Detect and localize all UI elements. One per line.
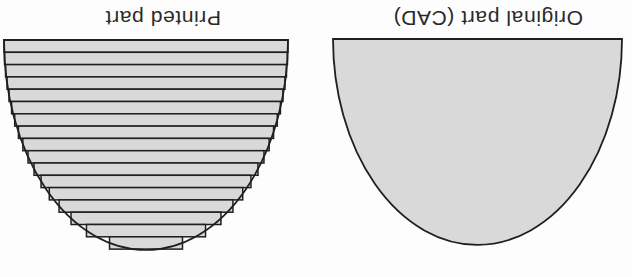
print-layer <box>86 225 205 237</box>
original-part-outline <box>333 39 622 245</box>
print-layer <box>28 151 264 163</box>
print-layer <box>34 163 258 175</box>
print-layer <box>41 175 251 187</box>
print-layer <box>59 200 233 212</box>
print-layer <box>12 102 281 114</box>
print-layer <box>4 40 288 52</box>
original-part-label: Original part (CAD) <box>378 4 598 32</box>
print-layer <box>71 212 221 224</box>
print-layer <box>7 77 285 89</box>
printed-part-shape <box>4 40 288 250</box>
print-layer <box>5 52 288 64</box>
print-layer <box>18 126 273 138</box>
print-layer <box>15 114 278 126</box>
diagram-canvas <box>0 0 632 277</box>
original-part-shape <box>333 39 622 245</box>
print-layer <box>49 188 242 200</box>
figure-stage: Printed part Original part (CAD) <box>0 0 632 277</box>
print-layer <box>23 138 269 150</box>
printed-part-label: Printed part <box>63 4 263 32</box>
print-layer <box>6 65 287 77</box>
print-layer <box>9 89 283 101</box>
